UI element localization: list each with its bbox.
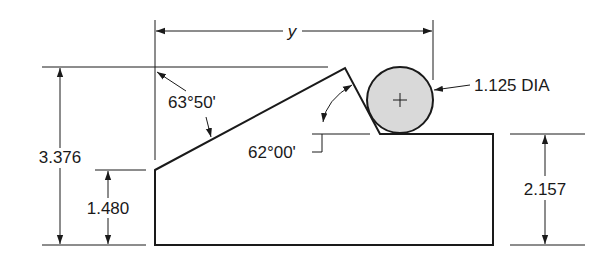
gauge-pin (367, 67, 433, 133)
dim-pin-diameter-label: 1.125 DIA (474, 76, 550, 95)
dim-notch-angle-label: 62°00' (248, 143, 296, 162)
dimension-slope-angle: 63°50' (157, 72, 216, 137)
dimension-left-height: 1.480 (87, 171, 130, 244)
dim-y-label: y (287, 22, 298, 41)
dim-right-height-label: 2.157 (524, 180, 567, 199)
dim-slope-angle-label: 63°50' (168, 93, 216, 112)
drawing-canvas: y 3.376 1.480 2.157 1.125 DIA 63°50' 62°… (0, 0, 614, 263)
dimension-notch-angle: 62°00' (248, 85, 352, 162)
dim-total-height-label: 3.376 (39, 148, 82, 167)
dimension-y: y (156, 22, 432, 41)
dimension-total-height: 3.376 (39, 68, 82, 244)
dim-left-height-label: 1.480 (87, 199, 130, 218)
dimension-right-height: 2.157 (524, 135, 567, 244)
dimension-pin-diameter: 1.125 DIA (434, 76, 550, 95)
